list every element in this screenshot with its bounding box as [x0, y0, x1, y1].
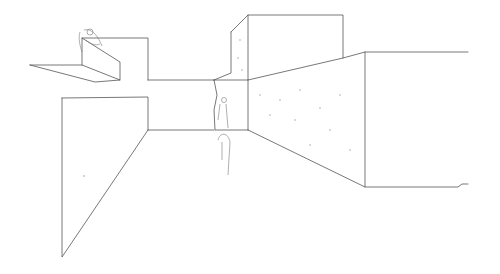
- central-passage: [62, 80, 214, 257]
- left-cantilever-slab: [30, 38, 148, 82]
- sketch-drawing: [0, 0, 500, 274]
- architectural-sketch: [0, 0, 500, 274]
- upper-block: [214, 15, 468, 80]
- standing-figure: [218, 98, 230, 176]
- stippled-wall: [214, 39, 468, 187]
